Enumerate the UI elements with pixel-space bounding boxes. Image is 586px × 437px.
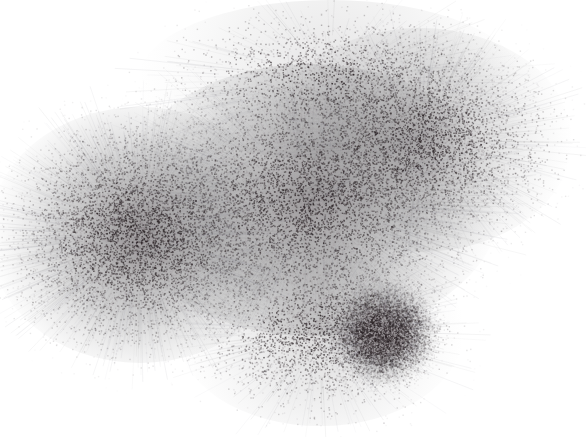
network-graph-figure bbox=[0, 0, 586, 437]
graph-canvas bbox=[0, 0, 586, 437]
